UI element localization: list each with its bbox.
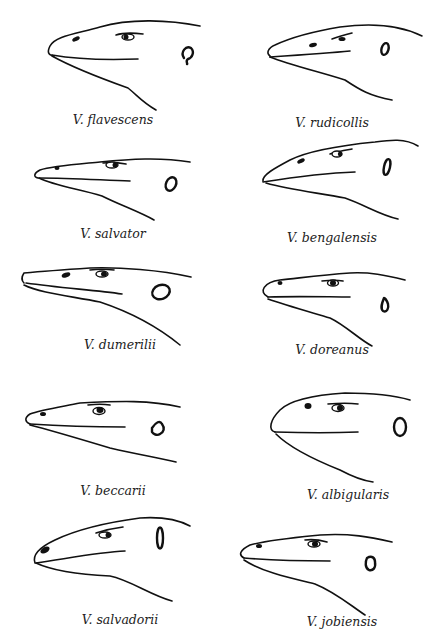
species-label-bengalensis: V. bengalensis bbox=[287, 230, 377, 245]
head-drawing-albigularis bbox=[271, 393, 410, 482]
species-label-salvadorii: V. salvadorii bbox=[82, 612, 159, 627]
lizard-head-drawings bbox=[0, 0, 432, 644]
head-drawing-doreanus bbox=[263, 273, 405, 346]
species-label-dumerilii: V. dumerilii bbox=[84, 337, 156, 352]
head-drawing-salvadorii bbox=[34, 518, 190, 601]
head-drawing-salvator bbox=[35, 159, 190, 220]
head-drawing-bengalensis bbox=[263, 140, 418, 219]
species-label-rudicollis: V. rudicollis bbox=[295, 115, 369, 130]
head-drawing-jobiensis bbox=[241, 534, 392, 615]
species-label-beccarii: V. beccarii bbox=[80, 483, 146, 498]
species-label-albigularis: V. albigularis bbox=[307, 487, 389, 502]
head-drawing-beccarii bbox=[26, 402, 180, 462]
head-drawing-flavescens bbox=[48, 21, 200, 110]
species-label-doreanus: V. doreanus bbox=[295, 342, 369, 357]
head-drawing-rudicollis bbox=[268, 25, 422, 100]
species-label-jobiensis: V. jobiensis bbox=[307, 614, 377, 629]
species-label-salvator: V. salvator bbox=[80, 226, 146, 241]
species-label-flavescens: V. flavescens bbox=[73, 112, 153, 127]
head-drawing-dumerilii bbox=[22, 268, 191, 345]
